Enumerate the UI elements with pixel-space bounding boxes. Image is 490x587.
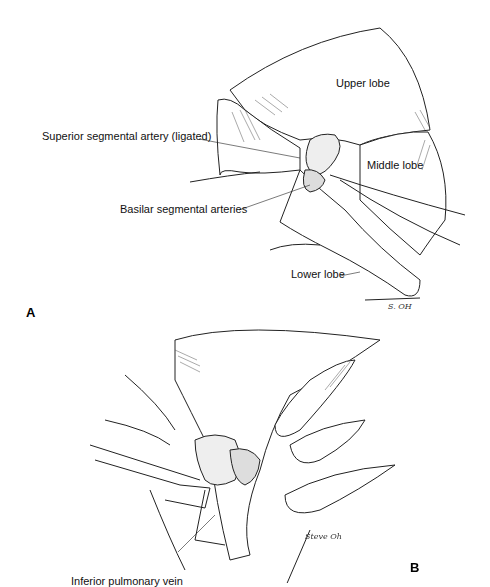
panel-a: Upper lobe Middle lobe Lower lobe Superi…: [0, 0, 490, 320]
label-superior-segmental-artery: Superior segmental artery (ligated): [42, 130, 211, 142]
label-inferior-pulmonary-vein: Inferior pulmonary vein: [71, 575, 183, 587]
panel-letter-b: B: [410, 560, 419, 575]
hilar-dissection-illustration: [0, 320, 490, 583]
label-lower-lobe: Lower lobe: [291, 268, 345, 280]
label-basilar-segmental-arteries: Basilar segmental arteries: [120, 203, 247, 215]
label-upper-lobe: Upper lobe: [336, 77, 390, 89]
artist-signature-a: S. OH: [388, 302, 412, 311]
panel-letter-a: A: [26, 305, 35, 320]
panel-b: Inferior pulmonary vein Steve Oh B: [0, 320, 490, 583]
artist-signature-b: Steve Oh: [305, 532, 342, 541]
label-middle-lobe: Middle lobe: [367, 159, 423, 171]
